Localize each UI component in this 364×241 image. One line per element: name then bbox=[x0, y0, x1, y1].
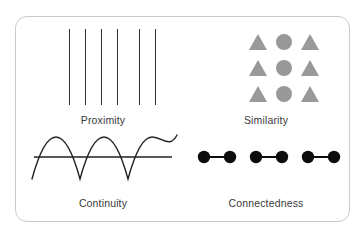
connectedness-dot bbox=[328, 151, 340, 163]
proximity-line bbox=[69, 29, 70, 105]
panel-continuity: Continuity bbox=[22, 125, 184, 219]
similarity-triangle bbox=[249, 59, 267, 77]
similarity-triangle bbox=[301, 59, 319, 77]
similarity-triangle bbox=[301, 85, 319, 103]
continuity-figure bbox=[22, 127, 184, 189]
proximity-line bbox=[117, 29, 118, 105]
connectedness-dot bbox=[250, 151, 262, 163]
panel-connectedness: Connectedness bbox=[186, 125, 346, 219]
connectedness-dot bbox=[276, 151, 288, 163]
gestalt-principles-card: Proximity Similarity Continuity bbox=[15, 16, 350, 222]
proximity-line bbox=[85, 29, 86, 105]
connectedness-dot bbox=[224, 151, 236, 163]
panel-caption-connectedness: Connectedness bbox=[186, 197, 346, 209]
connectedness-dot bbox=[198, 151, 210, 163]
proximity-figure bbox=[22, 29, 184, 107]
panel-proximity: Proximity bbox=[22, 21, 184, 121]
proximity-line bbox=[155, 29, 156, 105]
similarity-triangle bbox=[301, 33, 319, 51]
similarity-figure bbox=[186, 29, 346, 107]
panel-similarity: Similarity bbox=[186, 21, 346, 121]
proximity-line bbox=[139, 29, 140, 105]
similarity-triangle bbox=[249, 33, 267, 51]
proximity-line bbox=[101, 29, 102, 105]
connectedness-figure bbox=[186, 127, 346, 189]
similarity-circle bbox=[275, 85, 293, 103]
connectedness-dot bbox=[302, 151, 314, 163]
similarity-triangle bbox=[249, 85, 267, 103]
similarity-circle bbox=[275, 59, 293, 77]
panel-caption-continuity: Continuity bbox=[22, 197, 184, 209]
similarity-circle bbox=[275, 33, 293, 51]
